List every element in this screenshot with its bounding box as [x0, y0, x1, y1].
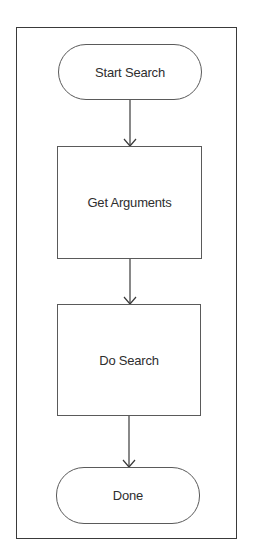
node-label: Get Arguments: [87, 195, 171, 210]
flowchart-canvas: Start Search Get Arguments Do Search Don…: [0, 0, 254, 560]
done-terminator: Done: [56, 467, 200, 524]
diagram-frame: [16, 27, 237, 539]
node-label: Done: [113, 488, 143, 503]
node-label: Start Search: [95, 65, 165, 80]
get-arguments-process: Get Arguments: [57, 146, 202, 259]
node-label: Do Search: [99, 353, 159, 368]
do-search-process: Do Search: [57, 304, 201, 416]
start-search-terminator: Start Search: [58, 44, 202, 100]
